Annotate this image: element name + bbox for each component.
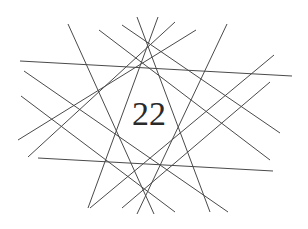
diagram-line-8 [24, 71, 228, 212]
center-number-label: 22 [124, 96, 174, 132]
diagram-line-1 [38, 158, 273, 171]
